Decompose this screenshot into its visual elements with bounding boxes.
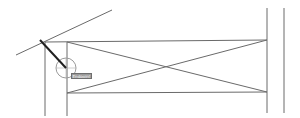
- diagonal-up-line[interactable]: [67, 40, 267, 93]
- construction-line[interactable]: [16, 10, 112, 55]
- top-horizontal-line[interactable]: [45, 40, 267, 42]
- drawing-canvas[interactable]: [0, 0, 300, 118]
- selected-line[interactable]: [40, 40, 66, 68]
- snap-tooltip: Endpoint: [71, 73, 92, 79]
- bottom-horizontal-line[interactable]: [67, 92, 267, 93]
